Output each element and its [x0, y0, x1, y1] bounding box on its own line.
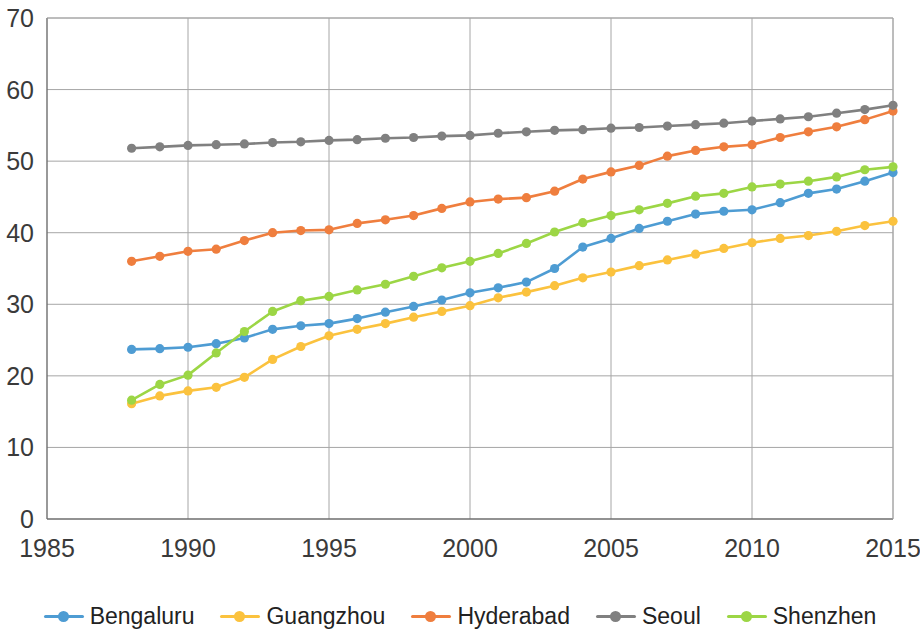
data-point[interactable]: [324, 319, 333, 328]
data-point[interactable]: [747, 205, 756, 214]
data-point[interactable]: [747, 182, 756, 191]
data-point[interactable]: [127, 257, 136, 266]
data-point[interactable]: [691, 120, 700, 129]
data-point[interactable]: [212, 348, 221, 357]
data-point[interactable]: [832, 184, 841, 193]
data-point[interactable]: [832, 172, 841, 181]
data-point[interactable]: [635, 161, 644, 170]
data-point[interactable]: [804, 231, 813, 240]
data-point[interactable]: [437, 131, 446, 140]
data-point[interactable]: [353, 314, 362, 323]
data-point[interactable]: [494, 249, 503, 258]
data-point[interactable]: [719, 189, 728, 198]
data-point[interactable]: [324, 331, 333, 340]
data-point[interactable]: [155, 252, 164, 261]
data-point[interactable]: [240, 373, 249, 382]
data-point[interactable]: [268, 138, 277, 147]
data-point[interactable]: [776, 114, 785, 123]
legend-item-hyderabad[interactable]: Hyderabad: [411, 605, 570, 628]
data-point[interactable]: [353, 219, 362, 228]
data-point[interactable]: [353, 135, 362, 144]
data-point[interactable]: [183, 371, 192, 380]
data-point[interactable]: [494, 283, 503, 292]
data-point[interactable]: [776, 133, 785, 142]
data-point[interactable]: [494, 194, 503, 203]
data-point[interactable]: [888, 101, 897, 110]
data-point[interactable]: [127, 345, 136, 354]
data-point[interactable]: [494, 129, 503, 138]
data-point[interactable]: [663, 199, 672, 208]
data-point[interactable]: [804, 189, 813, 198]
data-point[interactable]: [381, 134, 390, 143]
data-point[interactable]: [409, 313, 418, 322]
data-point[interactable]: [550, 281, 559, 290]
data-point[interactable]: [183, 343, 192, 352]
data-point[interactable]: [240, 236, 249, 245]
data-point[interactable]: [212, 245, 221, 254]
data-point[interactable]: [691, 146, 700, 155]
data-point[interactable]: [719, 207, 728, 216]
data-point[interactable]: [409, 133, 418, 142]
data-point[interactable]: [804, 127, 813, 136]
data-point[interactable]: [663, 121, 672, 130]
data-point[interactable]: [578, 125, 587, 134]
data-point[interactable]: [494, 293, 503, 302]
data-point[interactable]: [324, 225, 333, 234]
data-point[interactable]: [437, 263, 446, 272]
data-point[interactable]: [635, 123, 644, 132]
data-point[interactable]: [719, 244, 728, 253]
data-point[interactable]: [832, 122, 841, 131]
data-point[interactable]: [381, 280, 390, 289]
data-point[interactable]: [465, 257, 474, 266]
data-point[interactable]: [747, 238, 756, 247]
data-point[interactable]: [550, 264, 559, 273]
data-point[interactable]: [663, 152, 672, 161]
legend-item-bengaluru[interactable]: Bengaluru: [44, 605, 195, 628]
data-point[interactable]: [606, 267, 615, 276]
data-point[interactable]: [578, 273, 587, 282]
data-point[interactable]: [353, 325, 362, 334]
data-point[interactable]: [155, 344, 164, 353]
data-point[interactable]: [719, 119, 728, 128]
data-point[interactable]: [635, 261, 644, 270]
data-point[interactable]: [437, 295, 446, 304]
data-point[interactable]: [860, 177, 869, 186]
data-point[interactable]: [860, 221, 869, 230]
data-point[interactable]: [409, 302, 418, 311]
data-point[interactable]: [635, 205, 644, 214]
data-point[interactable]: [353, 285, 362, 294]
data-point[interactable]: [381, 215, 390, 224]
data-point[interactable]: [155, 391, 164, 400]
data-point[interactable]: [522, 278, 531, 287]
data-point[interactable]: [127, 396, 136, 405]
legend-item-seoul[interactable]: Seoul: [596, 605, 701, 628]
data-point[interactable]: [888, 162, 897, 171]
data-point[interactable]: [663, 255, 672, 264]
data-point[interactable]: [409, 211, 418, 220]
data-point[interactable]: [719, 142, 728, 151]
legend-item-guangzhou[interactable]: Guangzhou: [220, 605, 385, 628]
data-point[interactable]: [212, 140, 221, 149]
data-point[interactable]: [691, 210, 700, 219]
data-point[interactable]: [522, 127, 531, 136]
data-point[interactable]: [606, 167, 615, 176]
data-point[interactable]: [578, 242, 587, 251]
data-point[interactable]: [155, 142, 164, 151]
data-point[interactable]: [127, 144, 136, 153]
data-point[interactable]: [691, 192, 700, 201]
data-point[interactable]: [776, 234, 785, 243]
data-point[interactable]: [296, 321, 305, 330]
data-point[interactable]: [268, 228, 277, 237]
data-point[interactable]: [324, 136, 333, 145]
legend-item-shenzhen[interactable]: Shenzhen: [727, 605, 877, 628]
data-point[interactable]: [409, 272, 418, 281]
data-point[interactable]: [606, 124, 615, 133]
data-point[interactable]: [212, 383, 221, 392]
data-point[interactable]: [465, 131, 474, 140]
data-point[interactable]: [296, 296, 305, 305]
data-point[interactable]: [437, 204, 446, 213]
data-point[interactable]: [550, 187, 559, 196]
data-point[interactable]: [888, 217, 897, 226]
data-point[interactable]: [465, 288, 474, 297]
data-point[interactable]: [212, 339, 221, 348]
